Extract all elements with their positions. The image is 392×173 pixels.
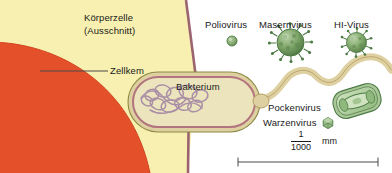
poliovirus-icon <box>227 36 237 46</box>
scale-numerator: 1 <box>291 130 311 140</box>
label-hi-virus: HI-Virus <box>334 19 369 30</box>
label-nucleus: Zellkem <box>110 65 144 76</box>
scale-unit: mm <box>322 136 337 146</box>
warzenvirus-icon <box>323 118 333 129</box>
label-poliovirus: Poliovirus <box>205 19 247 30</box>
pockenvirus-icon <box>330 81 384 122</box>
label-pockenvirus: Pockenvirus <box>268 102 321 113</box>
label-bacterium: Bakterium <box>176 81 220 92</box>
scale-bar <box>238 158 378 167</box>
scale-denominator: 1000 <box>291 143 311 153</box>
figure-canvas: Körperzelle (Ausschnitt) Zellkem Bakteri… <box>0 0 392 173</box>
scale-fraction: 1 1000 <box>291 130 311 152</box>
hi-virus-icon <box>341 27 373 58</box>
label-masernvirus: Masernvirus <box>259 19 312 30</box>
label-body-cell-line1: Körperzelle <box>84 12 133 23</box>
label-body-cell-line2: (Ausschnitt) <box>84 25 135 36</box>
label-warzenvirus: Warzenvirus <box>263 117 317 128</box>
